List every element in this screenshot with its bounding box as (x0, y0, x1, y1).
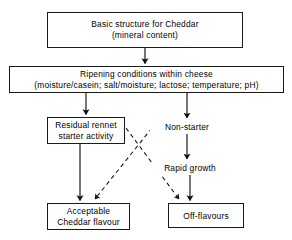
node-ripening-conditions-line1: Ripening conditions within cheese (80, 69, 213, 80)
node-non-starter-label: Non-starter (165, 122, 209, 132)
node-residual-rennet-line2: starter activity (59, 131, 114, 142)
node-rapid-growth-label: Rapid growth (164, 163, 216, 173)
node-ripening-conditions: Ripening conditions within cheese (moist… (9, 66, 284, 93)
node-off-flavours: Off-flavours (168, 203, 244, 228)
node-acceptable-flavour-line2: Cheddar flavour (57, 217, 120, 228)
diagram-canvas: Basic structure for Cheddar (mineral con… (0, 0, 292, 240)
node-basic-structure-line1: Basic structure for Cheddar (91, 19, 198, 30)
node-off-flavours-label: Off-flavours (183, 211, 229, 221)
node-basic-structure: Basic structure for Cheddar (mineral con… (47, 12, 243, 48)
node-non-starter: Non-starter (150, 120, 224, 133)
node-basic-structure-line2: (mineral content) (112, 30, 178, 41)
node-acceptable-cheddar-flavour: Acceptable Cheddar flavour (47, 203, 130, 230)
node-ripening-conditions-line2: (moisture/casein; salt/moisture; lactose… (34, 80, 258, 91)
node-acceptable-flavour-line1: Acceptable (67, 206, 110, 217)
node-residual-rennet-line1: Residual rennet (55, 120, 117, 131)
node-rapid-growth: Rapid growth (152, 161, 228, 174)
node-residual-rennet-starter-activity: Residual rennet starter activity (47, 117, 125, 144)
